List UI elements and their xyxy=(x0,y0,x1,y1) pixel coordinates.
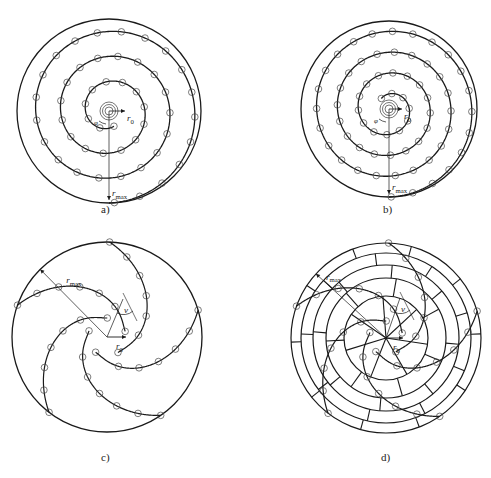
spiral-arm xyxy=(96,310,198,368)
radial-separator xyxy=(425,266,431,276)
panel-c: rmaxr0ν xyxy=(12,239,202,432)
radial-separator xyxy=(409,246,412,256)
center-spoke xyxy=(383,296,386,338)
r0-label: r0 xyxy=(127,113,135,125)
spiral-arm xyxy=(363,333,440,417)
radial-separator xyxy=(393,279,396,297)
panel-a: rmaxr0φ xyxy=(17,19,201,206)
nu-ref-line xyxy=(107,299,123,337)
radial-separator xyxy=(313,332,326,333)
nu-label: ν xyxy=(124,305,128,315)
phi-arc xyxy=(99,121,106,124)
caption-c: c) xyxy=(101,451,110,463)
radial-separator xyxy=(453,279,461,285)
radial-separator xyxy=(456,313,467,317)
radial-separator xyxy=(457,385,465,391)
radial-separator xyxy=(307,286,315,292)
panel-b: rmaxr0φ xyxy=(301,21,477,200)
phi-arc xyxy=(379,119,386,122)
nu-label: ν xyxy=(401,304,405,314)
rmax-label: rmax xyxy=(66,275,82,287)
spiral-arm xyxy=(43,318,107,413)
radial-separator xyxy=(361,420,364,430)
radial-separator xyxy=(380,398,381,411)
radial-separator xyxy=(353,249,356,258)
center-spoke xyxy=(346,338,386,350)
spiral-arm xyxy=(83,331,161,416)
arrowhead xyxy=(398,107,402,111)
caption-b: b) xyxy=(383,203,392,215)
rmax-label: rmax xyxy=(326,272,342,284)
phi-label: φ xyxy=(94,119,98,127)
caption-d: d) xyxy=(381,451,390,463)
radial-separator xyxy=(351,372,361,387)
radial-separator xyxy=(391,265,392,278)
rmax-label: rmax xyxy=(392,182,408,194)
panel-d: rmaxr0ν xyxy=(291,240,481,433)
arrowhead xyxy=(121,109,125,113)
radial-separator xyxy=(367,409,370,421)
sample-point-marker xyxy=(378,95,385,102)
radial-separator xyxy=(312,391,320,397)
arrowhead xyxy=(107,196,111,200)
radial-separator xyxy=(375,254,377,266)
r0-label: r0 xyxy=(116,341,124,353)
sample-point-marker xyxy=(92,349,99,356)
radial-separator xyxy=(301,334,313,335)
arrowhead xyxy=(122,335,126,339)
phi-label: φ xyxy=(374,117,378,125)
caption-a: a) xyxy=(101,203,110,215)
sample-point-marker xyxy=(367,329,374,336)
radial-separator xyxy=(453,366,464,371)
radial-separator xyxy=(416,418,419,427)
radial-separator xyxy=(419,403,425,414)
radial-separator xyxy=(446,343,459,344)
radial-separator xyxy=(346,293,358,306)
r0-label: r0 xyxy=(393,342,401,354)
figure-canvas: rmaxr0φrmaxr0φrmaxr0νrmaxr0ν xyxy=(0,0,491,478)
radial-separator xyxy=(432,291,442,299)
radial-separator xyxy=(330,377,340,385)
radial-separator xyxy=(425,384,433,394)
r0-label: r0 xyxy=(404,111,412,123)
sample-point-marker xyxy=(111,123,118,130)
center-spoke xyxy=(371,338,386,377)
radial-separator xyxy=(397,378,402,395)
rmax-label: rmax xyxy=(112,188,128,200)
